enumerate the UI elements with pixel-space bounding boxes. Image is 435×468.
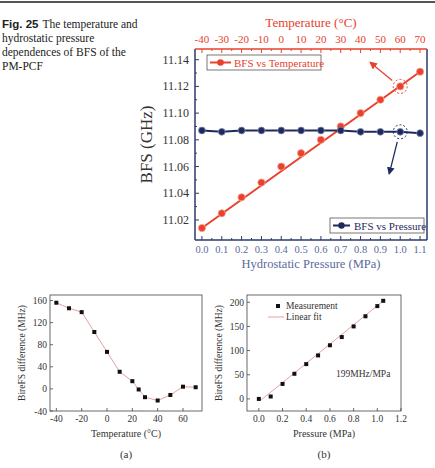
pressure-point [298,127,305,134]
y-tick-label: 0 [239,394,244,404]
x-tick-label: 0.2 [235,244,248,255]
data-point [118,370,122,374]
y-axis-title: BireFS difference (MHz) [17,305,28,401]
y-tick-label: 40 [38,362,48,372]
y-tick-label: 80 [38,340,48,350]
measurement-point [257,397,261,401]
x-tick-label: 0.4 [300,414,312,424]
legend-label: Measurement [286,301,338,311]
legend-label: BFS vs Temperature [234,57,324,69]
pressure-point [238,127,245,134]
temperature-point [258,179,265,186]
data-point [130,379,134,383]
y-tick-label: 11.02 [162,213,189,227]
legend-pressure: BFS vs Pressure [330,218,426,233]
pressure-axis-arrow-icon [389,142,397,174]
x-tick-label: 0.4 [275,244,289,255]
x-tick-label: 0.1 [215,244,228,255]
x-axis-title-bottom: Hydrostatic Pressure (MPa) [242,257,381,271]
pressure-point [318,127,325,134]
top-tick-label: -20 [234,33,249,45]
y-axis-title: BFS (GHz) [137,106,156,184]
x-tick-label: 0.6 [324,414,336,424]
x-tick-label: 60 [178,414,188,424]
top-tick-label: 40 [355,33,367,45]
data-point [54,301,58,305]
x-tick-label: 1.0 [371,414,383,424]
pressure-point [417,130,424,137]
measurement-point [363,314,367,318]
data-point [80,310,84,314]
top-tick-label: 30 [335,33,347,45]
x-tick-label: 1.0 [394,244,407,255]
panel-label: (a) [120,448,133,461]
x-tick-label: 0.8 [348,414,360,424]
pressure-point [278,127,285,134]
measurement-point [304,362,308,366]
measurement-point [292,372,296,376]
x-axis-title: Pressure (MPa) [293,428,355,440]
x-tick-label: 0.9 [374,244,387,255]
top-tick-label: -10 [254,33,269,45]
top-tick-label: 50 [375,33,387,45]
subplot-a: -40-200204060-4004080120160Temperature (… [17,295,202,461]
x-tick-label: 0.8 [354,244,367,255]
measurement-point [381,299,385,303]
x-tick-label: 0.5 [295,244,308,255]
temperature-point [357,110,364,117]
y-tick-label: 11.14 [162,53,189,67]
data-point [168,393,172,397]
main-chart: 0.00.10.20.30.40.50.60.70.80.91.01.1Hydr… [137,15,427,271]
x-tick-label: 0.0 [253,414,265,424]
x-tick-label: 0 [105,414,110,424]
pressure-point [218,128,225,135]
pressure-point [377,128,384,135]
legend-temperature: BFS vs Temperature [207,55,324,70]
y-tick-label: 120 [33,318,48,328]
y-tick-label: 11.06 [162,160,189,174]
figure-canvas: 0.00.10.20.30.40.50.60.70.80.91.01.1Hydr… [0,0,435,468]
pressure-point [258,127,265,134]
x-tick-label: 0.3 [255,244,268,255]
y-tick-label: 200 [230,298,245,308]
temperature-point [397,83,404,90]
measurement-point [375,304,379,308]
data-line [56,303,195,401]
y-tick-label: 11.04 [162,186,189,200]
y-tick-label: -40 [34,407,47,417]
top-tick-label: 10 [296,33,308,45]
x-axis-title-top: Temperature (°C) [265,15,356,30]
temperature-point [238,194,245,201]
y-tick-label: 150 [230,322,245,332]
top-tick-label: 20 [315,33,327,45]
measurement-point [281,382,285,386]
data-point [105,350,109,354]
x-tick-label: 0.7 [334,244,347,255]
x-tick-label: 0.0 [195,244,208,255]
data-point [194,385,198,389]
y-tick-label: 50 [235,370,245,380]
temperature-point [416,68,423,75]
y-tick-label: 160 [33,296,48,306]
slope-annotation: 199MHz/MPa [336,369,391,379]
temperature-point [297,150,304,157]
data-point [137,387,141,391]
x-tick-label: 1.1 [413,244,426,255]
y-tick-label: 100 [230,346,245,356]
subplot-b: 0.00.20.40.60.81.01.2050100150200Pressur… [214,295,407,461]
y-axis-title: BireFS difference (MHz) [214,305,225,401]
data-point [143,395,147,399]
temperature-axis-arrow-icon [370,62,392,80]
measurement-point [340,335,344,339]
data-point [156,399,160,403]
plot-frame [247,295,401,411]
y-tick-label: 11.10 [162,106,189,120]
pressure-point [337,127,344,134]
x-tick-label: 0.6 [314,244,327,255]
temperature-point [317,136,324,143]
measurement-point [269,395,273,399]
x-tick-label: 0.2 [277,414,289,424]
temperature-point [377,96,384,103]
x-axis-title: Temperature (°C) [91,428,161,440]
x-tick-label: 1.2 [395,414,407,424]
